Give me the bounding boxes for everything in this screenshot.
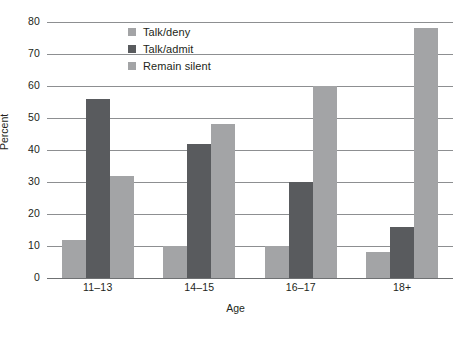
legend-label-talk-admit: Talk/admit <box>143 43 194 55</box>
y-tick-20: 20 <box>6 207 40 219</box>
x-axis-title: Age <box>0 302 471 314</box>
bar-talk-admit-11-13 <box>86 99 110 278</box>
legend-label-talk-deny: Talk/deny <box>143 26 190 38</box>
bar-talk-deny-14-15 <box>163 246 187 278</box>
y-axis-ticks: 80 70 60 50 40 30 20 10 0 <box>0 22 40 278</box>
bar-talk-deny-16-17 <box>265 246 289 278</box>
bar-chart: 80 70 60 50 40 30 20 10 0 Percent <box>0 0 471 337</box>
y-tick-70: 70 <box>6 47 40 59</box>
x-tick-14-15: 14–15 <box>149 281 251 293</box>
bar-talk-deny-18plus <box>366 252 390 278</box>
legend-swatch-talk-admit <box>128 45 136 53</box>
y-tick-60: 60 <box>6 79 40 91</box>
y-tick-50: 50 <box>6 111 40 123</box>
legend-swatch-remain-silent <box>128 62 136 70</box>
bar-remain-silent-14-15 <box>211 124 235 278</box>
legend-swatch-talk-deny <box>128 28 136 36</box>
y-axis-title: Percent <box>0 114 10 150</box>
y-tick-40: 40 <box>6 143 40 155</box>
y-tick-80: 80 <box>6 15 40 27</box>
x-tick-11-13: 11–13 <box>47 281 149 293</box>
legend: Talk/deny Talk/admit Remain silent <box>128 24 211 75</box>
bar-group-16-17 <box>250 22 352 278</box>
x-tick-18plus: 18+ <box>352 281 454 293</box>
bar-remain-silent-18plus <box>414 28 438 278</box>
bar-talk-admit-18plus <box>390 227 414 278</box>
y-tick-0: 0 <box>6 271 40 283</box>
bar-groups <box>47 22 453 278</box>
y-tick-10: 10 <box>6 239 40 251</box>
y-tick-30: 30 <box>6 175 40 187</box>
legend-item-talk-deny: Talk/deny <box>128 24 211 39</box>
x-axis-line <box>47 278 453 279</box>
bar-remain-silent-16-17 <box>313 86 337 278</box>
bar-group-18plus <box>352 22 454 278</box>
bar-talk-deny-11-13 <box>62 240 86 278</box>
legend-item-remain-silent: Remain silent <box>128 58 211 73</box>
bar-talk-admit-16-17 <box>289 182 313 278</box>
legend-item-talk-admit: Talk/admit <box>128 41 211 56</box>
x-axis-ticks: 11–13 14–15 16–17 18+ <box>47 281 453 293</box>
bar-remain-silent-11-13 <box>110 176 134 278</box>
x-tick-16-17: 16–17 <box>250 281 352 293</box>
bar-talk-admit-14-15 <box>187 144 211 278</box>
legend-label-remain-silent: Remain silent <box>143 60 211 72</box>
